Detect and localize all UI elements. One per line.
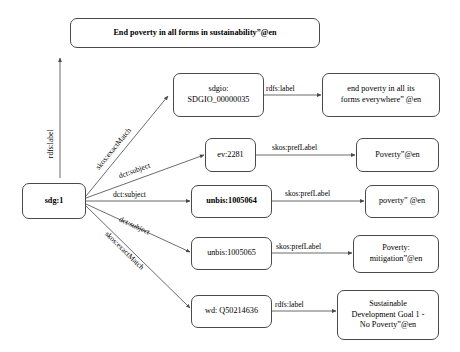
node-unbis1005064[interactable]: unbis:1005064 [191, 185, 272, 218]
edge-label-dct-subject-unbis64: dct:subject [113, 191, 146, 199]
node-sdg1[interactable]: sdg:1 [22, 183, 86, 219]
node-sdgio-label: sdgio: SDGIO_00000035 [177, 84, 260, 106]
node-literal-unbis64-label: poverty” @en [369, 196, 435, 207]
node-wd-q50214636[interactable]: wd: Q50214636 [191, 295, 272, 328]
edge-label-rdfs-label-top: rdfs:label [47, 129, 55, 158]
node-literal-ev[interactable]: Poverty”@en [356, 138, 439, 172]
node-literal-sdgio[interactable]: end poverty in all its forms everywhere”… [322, 73, 440, 117]
node-literal-unbis65[interactable]: Poverty: mitigation”@en [353, 235, 439, 273]
node-literal-top[interactable]: End poverty in all forms in sustainabili… [70, 18, 320, 48]
node-unbis1005065[interactable]: unbis:1005065 [191, 237, 272, 270]
node-sdgio[interactable]: sdgio: SDGIO_00000035 [173, 73, 264, 117]
edge-skos-exactmatch-sdgio [86, 96, 168, 196]
edge-label-skos-preflabel-ev: skos:prefLabel [272, 144, 317, 152]
node-wd-q50214636-label: wd: Q50214636 [195, 306, 268, 317]
edge-label-skos-preflabel-unbis64: skos:prefLabel [285, 190, 330, 198]
node-literal-wd[interactable]: Sustainable Development Goal 1 - No Pove… [337, 290, 439, 340]
node-literal-unbis65-label: Poverty: mitigation”@en [357, 243, 435, 265]
node-sdg1-label: sdg:1 [26, 196, 82, 207]
edge-label-rdfs-label-wd: rdfs:label [275, 301, 304, 309]
node-literal-ev-label: Poverty”@en [360, 150, 435, 161]
node-literal-top-label: End poverty in all forms in sustainabili… [74, 28, 316, 39]
edge-label-skos-preflabel-unbis65: skos:prefLabel [276, 243, 321, 251]
node-literal-unbis64[interactable]: poverty” @en [365, 185, 439, 218]
node-unbis1005064-label: unbis:1005064 [195, 196, 268, 207]
edge-label-rdfs-label-sdgio: rdfs:label [266, 85, 295, 93]
node-literal-wd-label: Sustainable Development Goal 1 - No Pove… [341, 299, 435, 331]
node-ev2281-label: ev:2281 [209, 150, 252, 161]
rdf-graph-diagram: End poverty in all forms in sustainabili… [0, 0, 460, 352]
node-unbis1005065-label: unbis:1005065 [195, 248, 268, 259]
node-ev2281[interactable]: ev:2281 [205, 138, 256, 172]
node-literal-sdgio-label: end poverty in all its forms everywhere”… [326, 84, 436, 106]
